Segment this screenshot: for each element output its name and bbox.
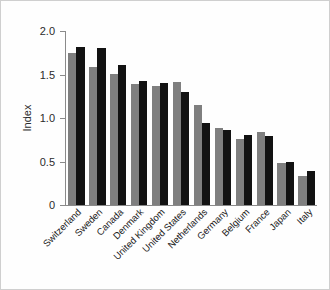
bar-group — [66, 31, 87, 205]
y-axis-tick-mark — [60, 118, 65, 119]
bar-group — [171, 31, 192, 205]
plot-area: 00.51.01.52.0 Index SwitzerlandSwedenCan… — [1, 1, 330, 290]
bar-series-gray — [194, 105, 202, 205]
bar-series-gray — [110, 74, 118, 205]
y-axis-tick-label: 2.0 — [40, 26, 55, 37]
x-axis-category-labels: SwitzerlandSwedenCanadaDenmarkUnited Kin… — [66, 207, 317, 287]
x-axis-line — [65, 205, 317, 206]
bar-series-black — [139, 81, 147, 205]
bar-series-black — [307, 171, 315, 205]
bar-group — [192, 31, 213, 205]
bar-series-gray — [236, 139, 244, 205]
y-axis-tick-mark — [60, 162, 65, 163]
y-axis-tick-mark — [60, 31, 65, 32]
bar-series-black — [286, 162, 294, 206]
bar-series-gray — [89, 67, 97, 205]
bar-group — [129, 31, 150, 205]
bar-series-black — [202, 123, 210, 205]
bar-series-black — [265, 136, 273, 205]
bar-series-gray — [152, 86, 160, 205]
chart-figure: 00.51.01.52.0 Index SwitzerlandSwedenCan… — [0, 0, 330, 290]
y-axis-tick-label: 0 — [49, 200, 55, 211]
bar-group — [275, 31, 296, 205]
bar-group — [150, 31, 171, 205]
bar-series-black — [160, 83, 168, 205]
bar-series-gray — [215, 128, 223, 205]
bars-layer — [66, 31, 317, 205]
bar-series-black — [244, 135, 252, 205]
y-axis-tick-label: 1.0 — [40, 113, 55, 124]
y-axis-title: Index — [21, 88, 33, 148]
bar-group — [212, 31, 233, 205]
bar-group — [87, 31, 108, 205]
y-axis-tick-label: 1.5 — [40, 69, 55, 80]
y-axis-tick-label: 0.5 — [40, 156, 55, 167]
bar-group — [254, 31, 275, 205]
bar-series-gray — [277, 163, 285, 205]
bar-series-gray — [68, 53, 76, 205]
y-axis-tick-mark — [60, 75, 65, 76]
bar-group — [233, 31, 254, 205]
bar-series-gray — [131, 84, 139, 205]
x-axis-label: Italy — [295, 207, 314, 226]
bar-series-black — [76, 47, 84, 205]
bar-series-gray — [257, 132, 265, 205]
y-axis-tick-mark — [60, 205, 65, 206]
bar-series-gray — [298, 176, 306, 205]
bar-series-black — [118, 65, 126, 205]
bar-group — [108, 31, 129, 205]
bar-group — [296, 31, 317, 205]
bar-series-gray — [173, 82, 181, 205]
bar-series-black — [181, 92, 189, 205]
bar-series-black — [97, 48, 105, 205]
bar-series-black — [223, 130, 231, 205]
x-axis-label: Japan — [267, 207, 292, 232]
